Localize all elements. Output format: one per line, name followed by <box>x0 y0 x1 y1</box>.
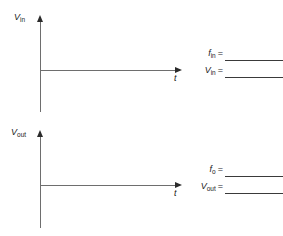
output-vertical-axis-subscript: out <box>17 131 26 138</box>
output-horizontal-axis <box>40 185 176 186</box>
input-measurements-group: fin = Vin = <box>193 44 283 78</box>
input-voltage-symbol: V <box>205 65 211 75</box>
output-voltage-blank[interactable] <box>225 182 283 194</box>
input-voltage-label: Vin <box>205 66 216 78</box>
input-horizontal-axis <box>40 70 176 71</box>
output-voltage-equals: = <box>216 182 225 194</box>
input-waveform-panel: Vin t <box>0 0 200 118</box>
input-voltage-blank[interactable] <box>225 66 283 78</box>
input-vertical-axis-subscript: in <box>20 16 25 23</box>
input-frequency-label: fin <box>208 49 216 61</box>
output-frequency-equals: = <box>216 165 225 177</box>
input-vertical-axis <box>40 21 41 112</box>
input-voltage-row: Vin = <box>193 61 283 78</box>
output-voltage-label: Vout <box>201 182 216 194</box>
output-waveform-panel: Vout t <box>0 115 200 236</box>
input-frequency-blank[interactable] <box>225 49 283 61</box>
axis-arrow-up-icon <box>37 15 43 22</box>
output-frequency-subscript: o <box>212 168 216 175</box>
output-voltage-symbol: V <box>201 181 207 191</box>
input-frequency-subscript: in <box>211 52 216 59</box>
output-frequency-row: fo = <box>193 160 283 177</box>
input-horizontal-axis-label: t <box>174 74 177 83</box>
input-voltage-subscript: in <box>211 69 216 76</box>
output-vertical-axis-label: Vout <box>11 128 26 137</box>
output-vertical-axis <box>40 136 41 228</box>
output-frequency-blank[interactable] <box>225 165 283 177</box>
output-voltage-row: Vout = <box>193 177 283 194</box>
output-measurements-group: fo = Vout = <box>193 160 283 194</box>
axis-arrow-up-icon <box>37 130 43 137</box>
waveform-worksheet: Vin t fin = Vin = Vout t fo = <box>0 0 283 236</box>
output-voltage-subscript: out <box>207 185 216 192</box>
input-frequency-row: fin = <box>193 44 283 61</box>
input-vertical-axis-label: Vin <box>14 13 25 22</box>
output-horizontal-axis-label: t <box>174 189 177 198</box>
input-frequency-equals: = <box>216 49 225 61</box>
input-voltage-equals: = <box>216 66 225 78</box>
